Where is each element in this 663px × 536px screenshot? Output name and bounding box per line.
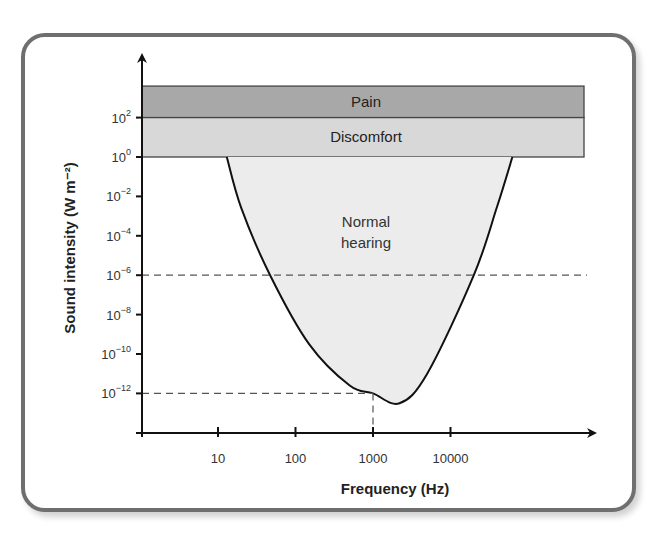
x-tick-label: 100	[285, 451, 307, 466]
y-tick-label: 102	[112, 108, 131, 126]
y-tick-label: 100	[112, 147, 131, 165]
x-tick-label: 10	[211, 451, 225, 466]
hearing-threshold-chart: PainDiscomfort Normalhearing 10210010−21…	[0, 0, 663, 536]
x-axis-title: Frequency (Hz)	[341, 480, 449, 497]
normal-hearing-fill	[227, 157, 513, 404]
y-tick-label: 10−6	[106, 265, 131, 283]
y-tick-label: 10−4	[106, 226, 131, 244]
y-ticks: 10210010−210−410−610−810−1010−12	[101, 108, 142, 402]
y-axis-title: Sound intensity (W m⁻²)	[61, 162, 78, 333]
region-label: hearing	[341, 234, 391, 251]
intensity-bands: PainDiscomfort	[142, 86, 584, 157]
region-label: Normal	[342, 213, 390, 230]
x-tick-label: 10000	[432, 451, 468, 466]
y-tick-label: 10−8	[106, 305, 131, 323]
band-label-pain: Pain	[351, 93, 381, 110]
x-tick-label: 1000	[359, 451, 388, 466]
y-tick-label: 10−2	[106, 186, 131, 204]
normal-hearing-region: Normalhearing	[227, 157, 513, 404]
y-tick-label: 10−10	[101, 344, 131, 362]
y-tick-label: 10−12	[101, 383, 131, 401]
band-label-discomfort: Discomfort	[330, 128, 403, 145]
